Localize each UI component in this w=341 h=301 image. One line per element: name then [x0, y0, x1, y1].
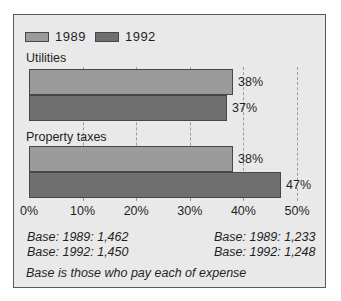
value-label-property-taxes-1989: 38% — [238, 152, 263, 166]
chart-panel: 1989 1992 Utilities38%37%Property taxes3… — [13, 14, 326, 288]
base-note-property-taxes: Base: 1989: 1,233 Base: 1992: 1,248 — [214, 230, 315, 260]
base-line: Base: 1992: 1,450 — [27, 245, 128, 260]
legend-swatch-1989 — [25, 32, 49, 42]
value-label-utilities-1992: 37% — [232, 101, 257, 115]
bar-utilities-1989 — [29, 69, 233, 95]
x-tick-label-50pct: 50% — [284, 204, 309, 218]
legend: 1989 1992 — [25, 29, 165, 44]
x-tick-label-30pct: 30% — [177, 204, 202, 218]
base-note-utilities: Base: 1989: 1,462 Base: 1992: 1,450 — [27, 230, 128, 260]
bar-utilities-1992 — [29, 95, 227, 121]
legend-swatch-1992 — [95, 32, 119, 42]
base-line: Base: 1989: 1,462 — [27, 230, 128, 245]
x-tick-label-0pct: 0% — [20, 204, 38, 218]
base-line: Base: 1992: 1,248 — [214, 245, 315, 260]
value-label-utilities-1989: 38% — [238, 75, 263, 89]
value-label-property-taxes-1992: 47% — [286, 178, 311, 192]
category-label-property-taxes: Property taxes — [26, 130, 107, 144]
footnote: Base is those who pay each of expense — [26, 266, 246, 280]
bar-property-taxes-1989 — [29, 146, 233, 172]
x-tick-label-20pct: 20% — [124, 204, 149, 218]
base-line: Base: 1989: 1,233 — [214, 230, 315, 245]
legend-label-1992: 1992 — [125, 29, 156, 44]
category-label-utilities: Utilities — [26, 51, 66, 65]
x-tick-label-40pct: 40% — [231, 204, 256, 218]
bar-property-taxes-1992 — [29, 172, 281, 198]
x-tick-label-10pct: 10% — [70, 204, 95, 218]
legend-label-1989: 1989 — [55, 29, 86, 44]
